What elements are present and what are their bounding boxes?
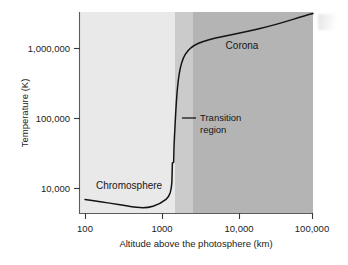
temperature-altitude-figure: 1,000,000 100,000 10,000 Temperature (K)… <box>0 0 348 265</box>
x-tick-label-100: 100 <box>77 223 93 234</box>
x-tick-label-10000: 10,000 <box>224 223 253 234</box>
y-tick-label-100000: 100,000 <box>36 113 70 124</box>
solar-atmosphere-temperature-chart: 1,000,000 100,000 10,000 Temperature (K)… <box>0 0 348 265</box>
corona-label: Corona <box>226 40 259 51</box>
x-tick-label-100000: 100,000 <box>295 223 329 234</box>
y-tick-label-1000000: 1,000,000 <box>28 43 70 54</box>
x-tick-label-1000: 1000 <box>151 223 172 234</box>
transition-region-label-line1: Transition <box>200 112 241 123</box>
transition-region-label-line2: region <box>200 124 226 135</box>
y-tick-label-10000: 10,000 <box>41 183 70 194</box>
x-axis-title: Altitude above the photosphere (km) <box>119 238 272 249</box>
y-axis-title: Temperature (K) <box>19 79 30 148</box>
transition-region-band <box>175 12 193 213</box>
chromosphere-label: Chromosphere <box>96 180 163 191</box>
